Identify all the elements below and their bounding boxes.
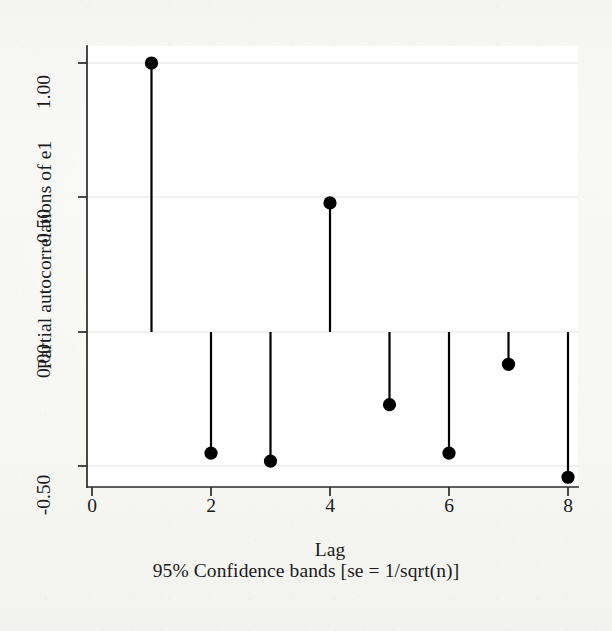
pacf-marker-lag-8 xyxy=(561,471,574,484)
pacf-marker-lag-5 xyxy=(383,398,396,411)
x-axis-title: Lag xyxy=(92,539,568,561)
pacf-marker-lag-2 xyxy=(204,446,217,459)
x-tick-label-4: 4 xyxy=(310,495,350,517)
pacf-marker-lag-4 xyxy=(323,196,336,209)
pacf-plot-canvas xyxy=(0,0,612,631)
pacf-marker-lag-3 xyxy=(264,455,277,468)
x-tick-label-6: 6 xyxy=(429,495,469,517)
x-tick-label-8: 8 xyxy=(548,495,588,517)
pacf-chart-figure: 1.00 0.50 0.00 -0.50 0 2 4 6 8 Partial a… xyxy=(0,0,612,631)
y-tick-label--0.50: -0.50 xyxy=(33,460,55,530)
x-tick-label-2: 2 xyxy=(191,495,231,517)
plot-area-background xyxy=(87,46,578,487)
pacf-marker-lag-7 xyxy=(502,358,515,371)
y-axis-ticks xyxy=(78,63,87,466)
y-axis-title: Partial autocorrelations of e1 xyxy=(28,40,62,470)
confidence-bands-note: 95% Confidence bands [se = 1/sqrt(n)] xyxy=(46,560,566,582)
pacf-marker-lag-1 xyxy=(145,56,158,69)
pacf-marker-lag-6 xyxy=(442,446,455,459)
x-tick-label-0: 0 xyxy=(72,495,112,517)
